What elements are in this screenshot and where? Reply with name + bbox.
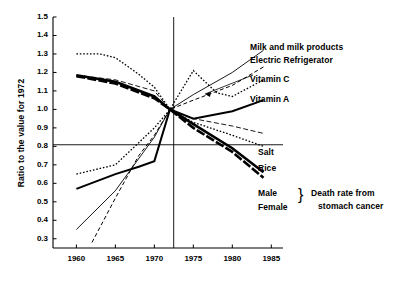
series-line-milk-and-milk-products [76,50,263,229]
series-line-rice [76,54,263,146]
series-label-salt: Salt [258,147,274,157]
x-tick-label: 1965 [100,254,130,263]
x-tick-label: 1985 [256,254,286,263]
y-tick-label: 0.6 [26,178,48,187]
series-layer [76,50,263,242]
x-tick-label: 1970 [139,254,169,263]
death-rate-label-line1: Death rate from [311,188,375,198]
y-tick-label: 0.9 [26,123,48,132]
series-label-female: Female [258,202,288,212]
y-tick-label: 0.4 [26,215,48,224]
series-line-female [76,76,263,178]
y-tick-label: 1.0 [26,104,48,113]
series-label-electric-refrigerator: Electric Refrigerator [250,55,333,65]
series-line-vitamin-c [76,71,263,174]
x-tick-label: 1975 [178,254,208,263]
y-tick-label: 0.5 [26,197,48,206]
chart-figure: Ratio to the value for 1972 0.30.40.50.6… [0,0,395,281]
series-line-male [76,75,263,172]
series-label-rice: Rice [258,163,276,173]
y-tick-label: 1.2 [26,67,48,76]
y-tick-label: 0.3 [26,234,48,243]
y-tick-label: 1.5 [26,12,48,21]
leader-lines [205,75,253,97]
series-label-vitamin-a: Vitamin A [250,94,289,104]
vitamin-c-leader-line [205,75,253,94]
x-tick-label: 1980 [217,254,247,263]
y-tick-label: 1.3 [26,49,48,58]
series-label-male: Male [258,188,277,198]
series-label-milk: Milk and milk products [250,42,343,52]
death-rate-label-line2: stomach cancer [318,201,383,211]
y-tick-label: 0.7 [26,160,48,169]
y-tick-label: 0.8 [26,141,48,150]
death-rate-brace-icon: } [298,186,303,204]
y-tick-label: 1.1 [26,86,48,95]
axis-layer [53,17,283,248]
y-tick-label: 1.4 [26,30,48,39]
x-tick-label: 1960 [61,254,91,263]
series-label-vitamin-c: Vitamin C [250,74,290,84]
